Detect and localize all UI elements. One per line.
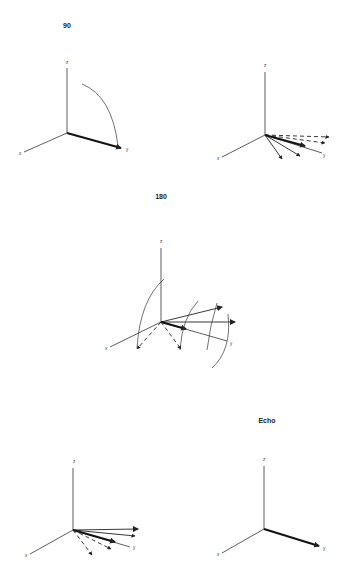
magnetization-vector xyxy=(161,322,186,329)
rotation-arc xyxy=(82,84,118,146)
slow-spin-vector xyxy=(265,135,300,156)
y-axis-label: y xyxy=(323,546,326,551)
z-axis-label: z xyxy=(73,459,76,464)
z-axis-label: z xyxy=(160,239,163,244)
y-axis-label: y xyxy=(230,341,233,346)
magnetization-vector xyxy=(67,133,121,148)
panel-echo: Echo z x y xyxy=(217,417,326,557)
panel-title: 180 xyxy=(155,193,167,200)
x-axis-label: x xyxy=(217,552,220,557)
panel-title: Echo xyxy=(258,417,275,424)
z-axis-label: z xyxy=(263,457,266,462)
x-axis xyxy=(110,322,161,347)
x-axis-label: x xyxy=(105,346,108,351)
z-axis-label: z xyxy=(66,60,69,65)
magnetization-vector xyxy=(264,529,319,546)
x-axis-label: x xyxy=(25,553,28,558)
panel-90: 90 z x y xyxy=(19,22,129,156)
x-axis xyxy=(222,135,265,157)
z-axis-label: z xyxy=(264,63,267,68)
panel-title: 90 xyxy=(63,22,71,29)
rotation-arc xyxy=(137,279,164,348)
x-axis-label: x xyxy=(19,151,22,156)
x-axis xyxy=(24,133,67,152)
panel-rephasing: z x y xyxy=(25,459,138,558)
y-axis-label: y xyxy=(126,147,129,152)
panel-180: 180 z x y xyxy=(105,193,235,368)
x-axis-label: x xyxy=(217,156,220,161)
flipped-spin-vector xyxy=(137,322,161,349)
x-axis xyxy=(222,529,264,553)
x-axis xyxy=(30,530,73,554)
y-axis-label: y xyxy=(323,153,326,158)
spin-echo-diagram: 90 z x y z x y 180 z x y xyxy=(0,0,351,564)
rotation-arc xyxy=(180,301,198,350)
magnetization-vector xyxy=(265,135,305,146)
y-axis-label: y xyxy=(133,545,136,550)
panel-dephasing: z x y xyxy=(217,63,329,161)
spin-vector xyxy=(73,529,138,530)
